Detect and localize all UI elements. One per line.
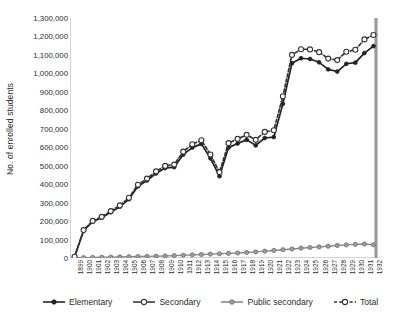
data-point [371,32,376,37]
legend-marker-icon [42,297,66,307]
y-axis-tick: 600,000 [40,143,68,152]
data-point [136,254,140,258]
x-axis-tick: 1900 [86,260,93,274]
data-point [326,56,331,61]
data-point [190,253,194,257]
legend-item-label: Secondary [159,297,200,307]
x-axis-tick: 1906 [140,260,147,274]
data-point [308,57,312,61]
legend-item-label: Elementary [69,297,112,307]
data-point [253,137,258,142]
data-point [109,255,113,258]
series-elementary [73,44,376,258]
data-point [317,60,321,64]
y-axis-tick: 1,100,000 [33,50,68,59]
data-point [145,176,150,181]
data-point [308,47,313,52]
data-point [308,245,312,249]
x-axis-tick: 1930 [358,260,365,274]
data-point [362,242,366,246]
x-axis-tick: 1921 [276,260,283,274]
x-axis-tick: 1912 [195,260,202,274]
data-point [263,136,267,140]
data-point [344,243,348,247]
data-point [235,251,239,255]
data-point [326,244,330,248]
x-axis-tick: 1929 [349,260,356,274]
data-point [244,132,249,137]
legend-item-total[interactable]: Total [333,297,378,307]
data-point [154,254,158,258]
data-point [299,56,303,60]
legend-item-label: Total [360,297,378,307]
x-axis-tick: 1910 [177,260,184,274]
x-axis-tick: 1920 [267,260,274,274]
y-axis-tick: 900,000 [40,87,68,96]
x-axis-tick: 1917 [240,260,247,274]
data-point [154,169,159,174]
data-point [163,163,168,168]
data-point [190,142,195,147]
x-axis-tick: 1914 [213,260,220,274]
plot-area [70,18,378,258]
series-canvas [70,18,378,258]
legend-item-public-secondary[interactable]: Public secondary [220,297,312,307]
data-point [353,61,357,65]
data-point [100,255,104,258]
data-point [263,249,267,253]
series-line [75,46,374,257]
x-axis-tick: 1913 [204,260,211,274]
data-point [245,250,249,254]
data-point [72,254,77,258]
data-point [181,149,186,154]
data-point [299,47,304,52]
data-point [145,254,149,258]
x-axis-tick: 1904 [122,260,129,274]
data-point [262,129,267,134]
data-point [290,247,294,251]
x-axis-tick: 1926 [322,260,329,274]
data-point [91,255,95,258]
data-point [344,49,349,54]
x-axis-tick: 1905 [131,260,138,274]
data-point [217,252,221,256]
y-axis-tick: 0 [64,254,68,263]
data-point [217,170,222,175]
chart-legend: ElementarySecondaryPublic secondaryTotal [0,292,420,312]
x-axis-tick: 1919 [258,260,265,274]
x-axis-tick: 1916 [231,260,238,274]
data-point [90,218,95,223]
x-axis-tick: 1925 [312,260,319,274]
data-point [81,256,85,258]
data-point [344,62,348,66]
data-point [172,162,177,167]
x-axis-tick: 1902 [104,260,111,274]
data-point [235,136,240,141]
data-point [226,141,231,146]
data-point [199,138,204,143]
y-axis-tick: 500,000 [40,161,68,170]
y-axis-tick: 800,000 [40,106,68,115]
data-point [172,254,176,258]
x-axis-tick: 1931 [367,260,374,274]
legend-item-secondary[interactable]: Secondary [132,297,200,307]
y-axis-tick: 400,000 [40,180,68,189]
legend-item-elementary[interactable]: Elementary [42,297,112,307]
data-point [353,47,358,52]
legend-marker-icon [220,297,244,307]
x-axis-tick: 1924 [303,260,310,274]
data-point [317,245,321,249]
x-axis-tick-labels: 1899190019011902190319041905190619071908… [70,260,378,290]
data-point [272,248,276,252]
x-axis-tick: 1915 [222,260,229,274]
x-axis-tick: 1907 [149,260,156,274]
x-axis-tick: 1923 [294,260,301,274]
y-axis-tick-labels: 0100,000200,000300,000400,000500,000600,… [18,0,68,270]
data-point [254,250,258,254]
x-axis-tick: 1908 [158,260,165,274]
x-axis-tick: 1922 [285,260,292,274]
data-point [127,255,131,258]
data-point [118,255,122,258]
data-point [363,51,367,55]
data-point [99,214,104,219]
